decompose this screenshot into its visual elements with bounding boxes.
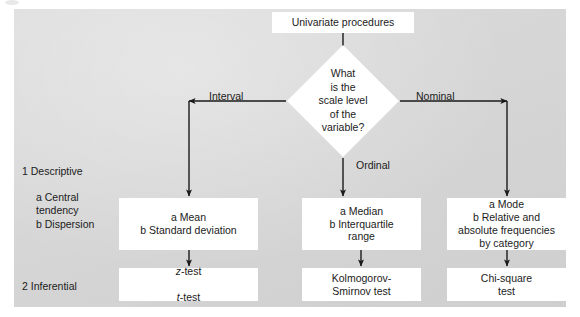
z-test-suffix: -test xyxy=(181,265,201,277)
node-inferential-interval: z-test t-test xyxy=(119,268,258,301)
node-descriptive-nominal: a Mode b Relative and absolute frequenci… xyxy=(447,198,566,250)
edge-label-interval: Interval xyxy=(209,90,243,102)
node-descriptive-interval: a Mean b Standard deviation xyxy=(119,198,258,250)
cropped-caption-strip xyxy=(0,0,580,9)
t-test-suffix: -test xyxy=(180,291,200,303)
edge-label-ordinal: Ordinal xyxy=(356,159,390,171)
node-decision-scale-level: What is the scale level of the variable? xyxy=(287,45,399,157)
row-label-descriptive-subitems: a Central tendency b Dispersion xyxy=(36,191,94,231)
node-inferential-nominal: Chi-square test xyxy=(447,268,566,301)
row-label-descriptive: 1 Descriptive xyxy=(22,165,83,178)
decision-question-text: What is the scale level of the variable? xyxy=(287,45,399,157)
row-label-inferential: 2 Inferential xyxy=(22,280,77,293)
node-descriptive-ordinal: a Median b Interquartile range xyxy=(302,198,421,250)
edge-label-nominal: Nominal xyxy=(416,90,455,102)
caption-artifact-blob xyxy=(5,0,19,5)
node-univariate-procedures: Univariate procedures xyxy=(272,12,414,33)
node-inferential-ordinal: Kolmogorov- Smirnov test xyxy=(302,268,421,301)
figure-canvas: Univariate procedures What is the scale … xyxy=(0,0,580,317)
